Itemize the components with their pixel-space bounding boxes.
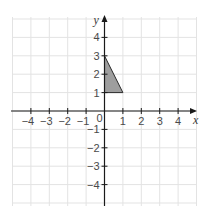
x-axis-label: x <box>192 113 199 127</box>
y-tick-label: −2 <box>87 142 100 154</box>
x-tick-label: 3 <box>157 115 163 127</box>
x-tick-label: 4 <box>175 115 181 127</box>
y-tick-label: 1 <box>93 87 99 99</box>
x-tick-label: 1 <box>120 115 126 127</box>
origin-label: 0 <box>97 112 103 124</box>
coordinate-grid: −4−3−2−112344321−1−2−3−4 x y 0 <box>0 0 207 220</box>
x-tick-label: −3 <box>40 115 53 127</box>
y-tick-label: 2 <box>93 68 99 80</box>
y-tick-label: 4 <box>93 31 99 43</box>
axes <box>11 15 197 206</box>
y-tick-label: −3 <box>87 160 100 172</box>
y-tick-label: −4 <box>87 179 100 191</box>
x-tick-label: 2 <box>138 115 144 127</box>
y-axis-label: y <box>93 13 100 27</box>
y-tick-label: 3 <box>93 50 99 62</box>
x-tick-label: −4 <box>22 115 35 127</box>
y-tick-label: −1 <box>87 123 100 135</box>
x-tick-label: −2 <box>58 115 71 127</box>
